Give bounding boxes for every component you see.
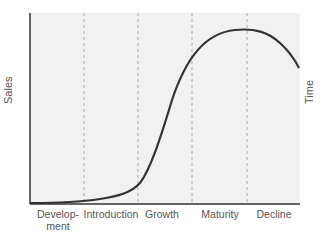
- stage-label-development-line2: ment: [32, 220, 84, 232]
- time-axis-label: Time: [303, 80, 315, 104]
- sales-curve: [30, 30, 299, 203]
- stage-label-development-line1: Develop-: [32, 208, 84, 220]
- stage-label-growth: Growth: [140, 208, 184, 220]
- stage-label-development: Develop- ment: [32, 208, 84, 232]
- stage-label-decline: Decline: [248, 208, 300, 220]
- y-axis-label: Sales: [2, 76, 14, 104]
- stage-label-introduction: Introduction: [82, 208, 140, 220]
- stage-label-maturity: Maturity: [193, 208, 247, 220]
- product-life-cycle-chart: [0, 0, 323, 241]
